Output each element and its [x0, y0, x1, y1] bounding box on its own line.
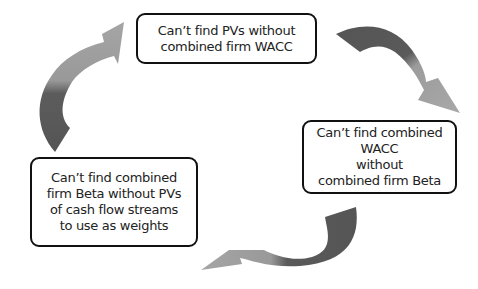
node-text: Can’t find PVs without combined firm WAC… — [158, 23, 295, 55]
arrow-left-to-top — [40, 22, 124, 152]
arrow-right-to-left — [201, 207, 357, 270]
node-text: Can’t find combined WACC without combine… — [304, 125, 455, 189]
node-wacc-needs-beta: Can’t find combined WACC without combine… — [302, 120, 457, 194]
node-pv-needs-wacc: Can’t find PVs without combined firm WAC… — [136, 13, 317, 64]
node-beta-needs-pv: Can’t find combined firm Beta without PV… — [30, 157, 198, 247]
node-text: Can’t find combined firm Beta without PV… — [47, 170, 181, 234]
arrow-top-to-right — [336, 26, 460, 113]
